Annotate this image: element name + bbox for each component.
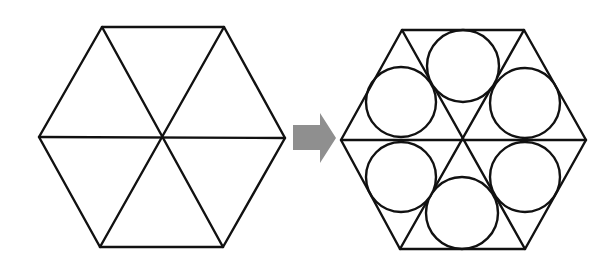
left-hexagon-diagonal <box>39 137 285 138</box>
inscribed-circle-top <box>427 30 499 102</box>
inscribed-circle-upper-right <box>490 68 560 138</box>
diagram-canvas <box>0 0 611 273</box>
inscribed-circle-lower-right <box>490 142 560 212</box>
left-hexagon-divided <box>39 27 285 247</box>
inscribed-circle-bottom <box>426 177 498 249</box>
right-hexagon-with-circles <box>341 30 586 249</box>
right-arrow-icon <box>293 113 336 163</box>
inscribed-circle-lower-left <box>366 142 436 212</box>
